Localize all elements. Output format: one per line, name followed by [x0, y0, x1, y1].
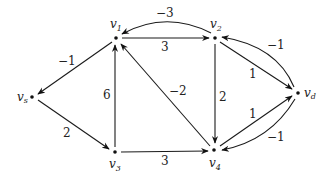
- node-v4: v4: [209, 148, 221, 172]
- weight-vd-v2: −1: [267, 38, 285, 52]
- svg-text:vs: vs: [17, 90, 28, 105]
- node-v3: v3: [109, 150, 121, 173]
- weight-v2-vd: 1: [249, 67, 257, 81]
- edge-v2-v1: [122, 22, 211, 34]
- weight-v3-v4: 3: [161, 154, 169, 168]
- weight-v2-v1: −3: [156, 6, 174, 20]
- svg-text:vd: vd: [304, 86, 316, 101]
- weight-v1-v2: 3: [161, 40, 169, 54]
- weight-vd-v4: −1: [267, 130, 285, 144]
- node-vd: vd: [296, 86, 316, 101]
- weight-vs-v3: 2: [63, 126, 71, 140]
- weight-v2-v4: 2: [219, 90, 227, 104]
- weight-v3-v1: 6: [103, 88, 111, 102]
- svg-text:v3: v3: [109, 157, 121, 173]
- edge-vs-v3: [38, 100, 109, 149]
- svg-text:v4: v4: [209, 156, 221, 172]
- weight-v1-vs: −1: [58, 54, 76, 68]
- weight-v4-vd: 1: [249, 107, 257, 121]
- graph-diagram: −3 3 −1 2 6 −2 2 3 1 −1 1 −1 v1 v2 vs v3…: [0, 0, 331, 178]
- edge-v3-v4: [121, 151, 208, 152]
- node-vs: vs: [17, 90, 34, 105]
- svg-text:v2: v2: [210, 17, 222, 33]
- node-v1: v1: [110, 17, 122, 40]
- node-v2: v2: [210, 17, 222, 40]
- svg-text:v1: v1: [110, 17, 122, 33]
- weight-v4-v1: −2: [169, 84, 187, 98]
- edge-v4-v1: [121, 44, 210, 146]
- edge-v1-vs: [38, 42, 112, 94]
